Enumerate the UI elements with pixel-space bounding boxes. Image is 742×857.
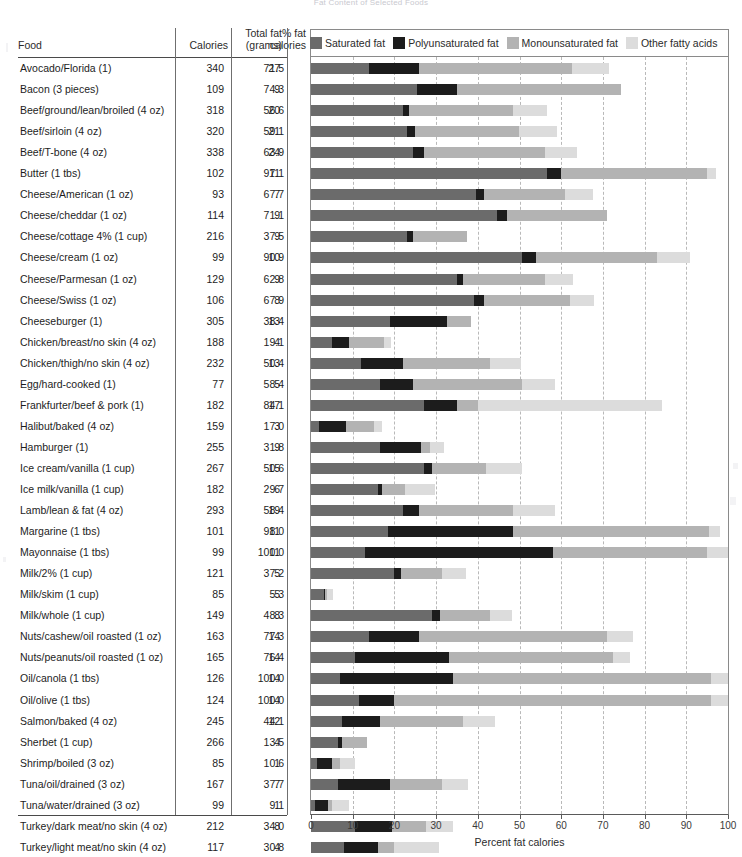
legend-item-3: Other fatty acids [626,37,717,49]
table-row: Cheese/Swiss (1 oz)106867.9 [0,291,742,312]
cell-calories: 77 [176,378,224,390]
cell-food: Margarine (1 tbs) [20,525,100,537]
scan-artifact [733,463,738,469]
cell-food: Cheese/cheddar (1 oz) [20,209,127,221]
cell-pct-fat: 19.1 [240,336,284,348]
cell-food: Shrimp/boiled (3 oz) [20,757,114,769]
cell-pct-fat: 71.5 [240,62,284,74]
cell-pct-fat: 37.5 [240,230,284,242]
cell-pct-fat: 100.0 [240,694,284,706]
cell-calories: 114 [176,209,224,221]
table-row: Bacon (3 pieces)109974.3 [0,80,742,101]
cell-pct-fat: 98.0 [240,525,284,537]
cell-food: Beef/sirloin (4 oz) [20,125,102,137]
cell-calories: 212 [176,820,224,832]
cell-food: Nuts/cashew/oil roasted (1 oz) [20,630,161,642]
cell-food: Chicken/breast/no skin (4 oz) [20,336,156,348]
cell-calories: 216 [176,230,224,242]
cell-pct-fat: 44.1 [240,715,284,727]
cell-pct-fat: 58.4 [240,378,284,390]
x-tick-label-70: 70 [597,820,608,831]
table-row: Butter (1 tbs)1021197.1 [0,164,742,185]
table-row: Cheese/American (1 oz)93767.7 [0,185,742,206]
cell-food: Milk/whole (1 cup) [20,609,105,621]
cell-food: Oil/canola (1 tbs) [20,672,99,684]
cell-pct-fat: 67.9 [240,294,284,306]
legend-label: Other fatty acids [641,37,717,49]
legend-item-2: Monounsaturated fat [507,37,618,49]
cell-food: Bacon (3 pieces) [20,83,99,95]
cell-food: Cheese/cream (1 oz) [20,251,118,263]
cell-pct-fat: 48.3 [240,609,284,621]
table-row: Cheese/Parmesan (1 oz)129962.8 [0,270,742,291]
cell-pct-fat: 76.4 [240,651,284,663]
cell-calories: 232 [176,357,224,369]
table-row: Ice cream/vanilla (1 cup)2671550.6 [0,459,742,480]
cell-food: Tuna/water/drained (3 oz) [20,799,140,811]
legend-swatch-icon [393,37,405,49]
cell-food: Salmon/baked (4 oz) [20,715,117,727]
cell-food: Mayonnaise (1 tbs) [20,546,109,558]
table-row: Egg/hard-cooked (1)77558.4 [0,375,742,396]
cell-food: Cheese/Parmesan (1 oz) [20,273,137,285]
table-row: Ice milk/vanilla (1 cup)182629.7 [0,480,742,501]
legend-label: Monounsaturated fat [522,37,618,49]
cell-food: Beef/ground/lean/broiled (4 oz) [20,104,164,116]
column-header-pct-fat-line1: % fat [256,28,306,40]
cell-calories: 149 [176,609,224,621]
table-row: Chicken/thigh/no skin (4 oz)2321350.4 [0,354,742,375]
x-tick-label-40: 40 [472,820,483,831]
table-row: Beef/sirloin (4 oz)3202159.1 [0,122,742,143]
table-row: Cheese/cream (1 oz)991090.9 [0,248,742,269]
cell-calories: 85 [176,757,224,769]
cell-pct-fat: 71.1 [240,209,284,221]
cell-food: Ice milk/vanilla (1 cup) [20,483,124,495]
x-tick-label-0: 0 [308,820,314,831]
cell-calories: 182 [176,483,224,495]
cell-pct-fat: 37.2 [240,567,284,579]
table-row: Nuts/peanuts/oil roasted (1 oz)1651476.4 [0,648,742,669]
cell-food: Beef/T-bone (4 oz) [20,146,107,158]
cell-pct-fat: 100.0 [240,546,284,558]
cell-pct-fat: 17.0 [240,420,284,432]
cell-calories: 245 [176,715,224,727]
cell-calories: 126 [176,672,224,684]
table-row: Chicken/breast/no skin (4 oz)188419.1 [0,333,742,354]
cell-food: Oil/olive (1 tbs) [20,694,90,706]
x-tick-label-100: 100 [720,820,737,831]
table-row: Cheese/cheddar (1 oz)114971.1 [0,206,742,227]
cell-pct-fat: 37.7 [240,778,284,790]
cell-pct-fat: 50.4 [240,357,284,369]
table-row: Frankfurter/beef & pork (1)1821784.1 [0,396,742,417]
legend-swatch-icon [507,37,519,49]
scan-artifact [3,557,6,562]
legend-swatch-icon [310,37,322,49]
table-row: Oil/olive (1 tbs)12414100.0 [0,691,742,712]
cell-pct-fat: 62.8 [240,273,284,285]
legend-item-0: Saturated fat [310,37,385,49]
scan-artifact [6,43,8,52]
cell-food: Cheeseburger (1) [20,315,102,327]
cell-food: Halibut/baked (4 oz) [20,420,114,432]
table-row: Oil/canola (1 tbs)12614100.0 [0,669,742,690]
cell-food: Milk/2% (1 cup) [20,567,92,579]
cell-food: Turkey/light meat/no skin (4 oz) [20,841,166,853]
cell-calories: 101 [176,525,224,537]
table-row: Avocado/Florida (1)3402771.5 [0,59,742,80]
cell-calories: 340 [176,62,224,74]
cell-calories: 99 [176,799,224,811]
table-row: Margarine (1 tbs)1011198.0 [0,522,742,543]
x-tick-90 [686,815,687,819]
cell-pct-fat: 34.0 [240,820,284,832]
cell-calories: 267 [176,462,224,474]
cell-calories: 93 [176,188,224,200]
cell-food: Frankfurter/beef & pork (1) [20,399,144,411]
table-row: Milk/2% (1 cup)121537.2 [0,564,742,585]
x-tick-60 [561,815,562,819]
x-tick-100 [728,815,729,819]
cell-food: Turkey/dark meat/no skin (4 oz) [20,820,167,832]
x-tick-label-30: 30 [431,820,442,831]
cell-food: Ice cream/vanilla (1 cup) [20,462,134,474]
cell-pct-fat: 56.6 [240,104,284,116]
x-tick-50 [520,815,521,819]
